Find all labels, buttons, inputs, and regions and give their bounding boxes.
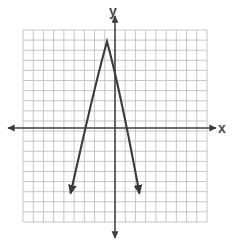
coordinate-graph-svg: y x	[0, 0, 235, 241]
figure-background	[0, 0, 235, 241]
coordinate-graph-figure: y x	[0, 0, 235, 241]
x-axis-label: x	[218, 120, 226, 136]
y-axis-label: y	[109, 3, 117, 19]
